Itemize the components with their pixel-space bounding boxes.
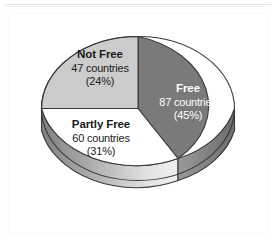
slice-label-not-free: Not Free 47 countries (24%) [57, 48, 143, 88]
slice-label-not-free-percent: (24%) [57, 75, 143, 88]
slice-label-not-free-title: Not Free [57, 48, 143, 62]
slice-label-partly-free-title: Partly Free [53, 118, 149, 132]
pie-chart-figure: Free 87 countries (45%) Not Free 47 coun… [0, 0, 276, 250]
slice-label-free-count: 87 countries [148, 96, 228, 109]
slice-label-partly-free-percent: (31%) [53, 145, 149, 158]
slice-label-partly-free: Partly Free 60 countries (31%) [53, 118, 149, 158]
slice-label-partly-free-count: 60 countries [53, 132, 149, 145]
slice-label-free-title: Free [148, 82, 228, 96]
slice-label-not-free-count: 47 countries [57, 62, 143, 75]
slice-label-free-percent: (45%) [148, 109, 228, 122]
slice-label-free: Free 87 countries (45%) [148, 82, 228, 122]
